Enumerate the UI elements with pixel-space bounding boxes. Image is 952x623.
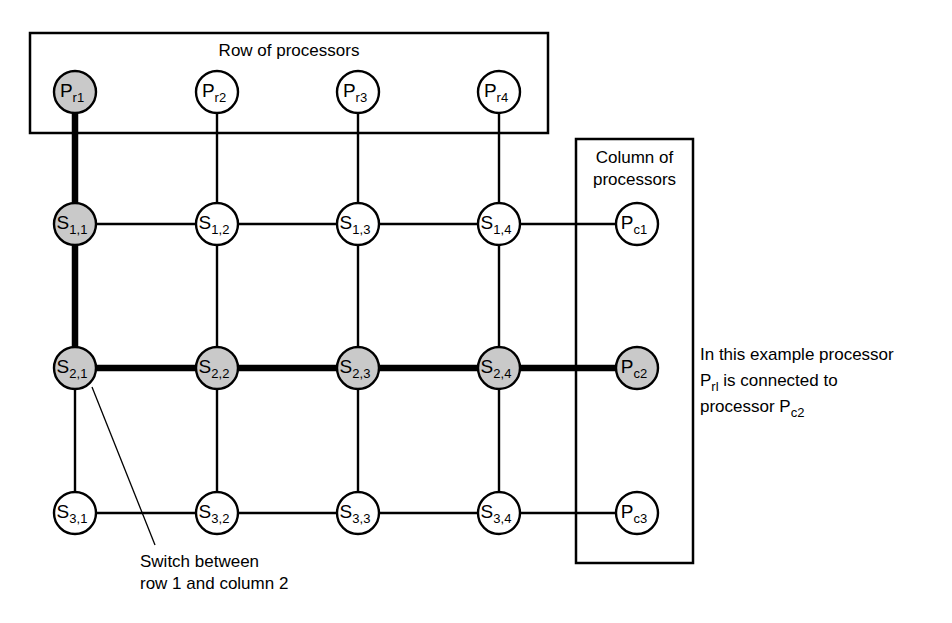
switch-label-base: S (340, 356, 353, 377)
switch-label-base: S (340, 501, 353, 522)
switch-s23[interactable]: S2,3 (337, 347, 379, 389)
switch-label-base: S (481, 212, 494, 233)
switch-s12[interactable]: S1,2 (196, 203, 238, 245)
example-annotation-line3-base: processor P (700, 397, 791, 416)
crossbar-network-diagram: Row of processors Column of processors P… (0, 0, 952, 623)
row-processor-label-subscript: r1 (73, 90, 85, 105)
column-of-processors-label-line2: processors (593, 170, 676, 189)
row-processor-label-base: P (202, 80, 215, 101)
switch-label-subscript: 2,2 (211, 366, 229, 381)
switch-label-base: S (57, 501, 70, 522)
column-processor-label-base: P (621, 501, 634, 522)
switch-label-base: S (340, 212, 353, 233)
switch-label-base: S (57, 356, 70, 377)
switch-s21[interactable]: S2,1 (54, 347, 96, 389)
row-of-processors-label: Row of processors (219, 41, 360, 60)
row-processor-pr1[interactable]: Pr1 (54, 71, 96, 113)
column-processor-label-subscript: c1 (633, 222, 647, 237)
switch-label-subscript: 1,2 (211, 222, 229, 237)
switch-label-base: S (481, 356, 494, 377)
switch-label-base: S (199, 356, 212, 377)
switch-s14[interactable]: S1,4 (478, 203, 520, 245)
switch-label-subscript: 1,3 (352, 222, 370, 237)
example-annotation-line3-subscript: c2 (791, 405, 805, 420)
switch-annotation-line2: row 1 and column 2 (140, 574, 288, 593)
row-processor-label-subscript: r2 (215, 90, 227, 105)
example-annotation-line2-subscript: rl (711, 379, 718, 394)
column-processor-pc3[interactable]: Pc3 (616, 492, 658, 534)
switch-s24[interactable]: S2,4 (478, 347, 520, 389)
switch-label-subscript: 3,2 (211, 511, 229, 526)
switch-s34[interactable]: S3,4 (478, 492, 520, 534)
switch-s11[interactable]: S1,1 (54, 203, 96, 245)
row-processor-label-base: P (484, 80, 497, 101)
switch-label-subscript: 3,3 (352, 511, 370, 526)
switch-label-base: S (199, 212, 212, 233)
row-processor-label-subscript: r3 (356, 90, 368, 105)
row-processor-label-base: P (60, 80, 73, 101)
column-processor-label-subscript: c2 (633, 366, 647, 381)
column-processor-label-base: P (621, 356, 634, 377)
switch-label-base: S (481, 501, 494, 522)
network-links (75, 113, 616, 513)
row-processor-pr4[interactable]: Pr4 (478, 71, 520, 113)
switch-label-subscript: 3,1 (69, 511, 87, 526)
switch-s33[interactable]: S3,3 (337, 492, 379, 534)
switch-label-base: S (57, 212, 70, 233)
column-processor-pc1[interactable]: Pc1 (616, 203, 658, 245)
example-annotation-line3: processor Pc2 (700, 397, 804, 420)
switch-s13[interactable]: S1,3 (337, 203, 379, 245)
switch-label-subscript: 2,4 (493, 366, 511, 381)
column-of-processors-label-line1: Column of (596, 148, 674, 167)
switch-label-subscript: 2,1 (69, 366, 87, 381)
switch-annotation-line1: Switch between (140, 552, 259, 571)
column-processor-label-base: P (621, 212, 634, 233)
row-processor-label-base: P (343, 80, 356, 101)
example-annotation-line2-rest: is connected to (719, 371, 838, 390)
column-processor-label-subscript: c3 (633, 511, 647, 526)
switch-label-subscript: 1,1 (69, 222, 87, 237)
switch-label-subscript: 3,4 (493, 511, 511, 526)
example-annotation-line2: Prl is connected to (700, 371, 838, 394)
switch-annotation-leader-line (92, 387, 155, 545)
column-processor-pc2[interactable]: Pc2 (616, 347, 658, 389)
row-processor-pr2[interactable]: Pr2 (196, 71, 238, 113)
switch-s22[interactable]: S2,2 (196, 347, 238, 389)
example-annotation-line1: In this example processor (700, 345, 894, 364)
row-processor-pr3[interactable]: Pr3 (337, 71, 379, 113)
example-annotation-line2-base: P (700, 371, 711, 390)
switch-label-subscript: 2,3 (352, 366, 370, 381)
switch-s32[interactable]: S3,2 (196, 492, 238, 534)
switch-s31[interactable]: S3,1 (54, 492, 96, 534)
row-processor-label-subscript: r4 (497, 90, 509, 105)
diagram-canvas: Row of processors Column of processors P… (0, 0, 952, 623)
network-nodes: Pr1Pr2Pr3Pr4Pc1Pc2Pc3S1,1S1,2S1,3S1,4S2,… (54, 71, 658, 534)
switch-label-base: S (199, 501, 212, 522)
switch-label-subscript: 1,4 (493, 222, 511, 237)
